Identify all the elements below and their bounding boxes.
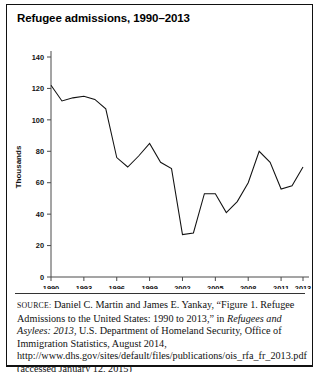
- x-tick-label: 2013: [295, 284, 311, 290]
- y-tick-label: 100: [32, 116, 44, 125]
- refugee-admissions-line-chart: 020406080100120140 199019931996199920022…: [7, 31, 312, 289]
- x-tick-label: 1990: [43, 284, 59, 290]
- figure-container: Refugee admissions, 1990–2013 0204060801…: [6, 4, 313, 366]
- y-tick-label: 0: [40, 273, 44, 282]
- y-axis: 020406080100120140: [32, 51, 51, 282]
- y-tick-label: 80: [36, 147, 44, 156]
- y-tick-label: 20: [36, 241, 44, 250]
- chart-plot-area: 020406080100120140 199019931996199920022…: [7, 31, 312, 289]
- y-tick-label: 120: [32, 84, 44, 93]
- x-tick-label: 2011: [273, 284, 289, 290]
- y-tick-label: 140: [32, 53, 44, 62]
- page-title: Refugee admissions, 1990–2013: [17, 12, 190, 24]
- source-note: SOURCE: Daniel C. Martin and James E. Ya…: [17, 299, 305, 372]
- y-axis-title: Thousands: [14, 145, 23, 188]
- x-tick-label: 2008: [240, 284, 256, 290]
- x-tick-label: 1993: [76, 284, 92, 290]
- x-axis: 199019931996199920022005200820112013: [43, 277, 311, 289]
- x-tick-label: 2005: [207, 284, 223, 290]
- x-tick-label: 1999: [141, 284, 157, 290]
- y-tick-label: 40: [36, 210, 44, 219]
- x-tick-label: 2002: [174, 284, 190, 290]
- data-line: [51, 85, 303, 234]
- x-tick-label: 1996: [109, 284, 125, 290]
- data-series-group: [51, 85, 303, 234]
- y-tick-label: 60: [36, 178, 44, 187]
- source-divider: [15, 293, 305, 294]
- source-label: SOURCE:: [17, 301, 51, 310]
- bottom-rule: [6, 366, 313, 367]
